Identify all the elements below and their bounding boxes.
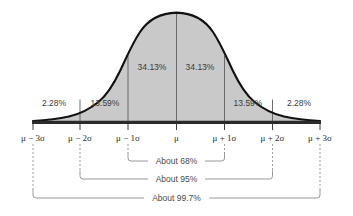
axis-label-plus-3-sigma: μ + 3σ [308, 133, 332, 143]
percent-label-plus-1-to-plus-2: 13.59% [234, 98, 263, 108]
axis-label-plus-1-sigma: μ + 1σ [213, 133, 237, 143]
percent-label-minus-1-to-mu: 34.13% [138, 62, 167, 72]
percent-label-tail-left: 2.28% [42, 98, 67, 108]
axis-label-plus-2-sigma: μ + 2σ [261, 133, 285, 143]
percent-label-mu-to-plus-1: 34.13% [186, 62, 215, 72]
axis-label-mu: μ [174, 133, 179, 143]
bracket-label-about-95: About 95% [156, 174, 198, 184]
bracket-label-about-68: About 68% [156, 156, 198, 166]
bracket-label-about-997: About 99.7% [152, 193, 201, 203]
axis-label-minus-3-sigma: μ − 3σ [21, 133, 45, 143]
axis-label-minus-1-sigma: μ − 1σ [116, 133, 140, 143]
normal-distribution-figure: 2.28% 13.59% 34.13% 34.13% 13.59% 2.28% … [0, 0, 353, 216]
percent-label-minus-2-to-minus-1: 13.59% [91, 98, 120, 108]
axis-label-minus-2-sigma: μ − 2σ [68, 133, 92, 143]
percent-label-tail-right: 2.28% [287, 98, 312, 108]
